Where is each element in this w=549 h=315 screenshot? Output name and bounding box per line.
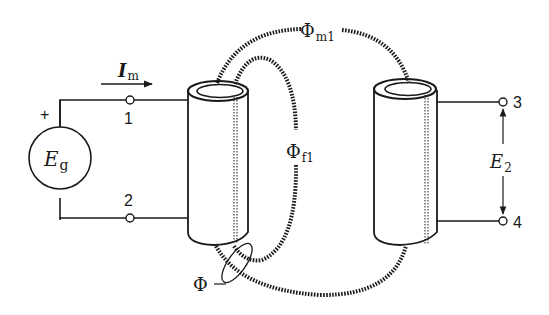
mutual-flux-top-left: [217, 29, 302, 83]
right-coax-line: [374, 79, 437, 245]
mutual-flux-label: Φm1: [300, 20, 335, 44]
polarity-plus: +: [40, 106, 49, 123]
coax-flux-diagram: Eg + 1 2 Im 3 4 E2: [0, 0, 549, 315]
terminal-2: [126, 214, 134, 222]
terminal-3: [499, 98, 507, 106]
source-circuit: Eg + 1 2 Im: [29, 60, 187, 222]
terminal-4-label: 4: [513, 214, 522, 231]
bottom-wire: [60, 218, 187, 220]
output-circuit: 3 4 E2: [437, 94, 522, 231]
output-voltage-label: E2: [489, 151, 512, 175]
terminal-3-label: 3: [513, 94, 522, 111]
terminal-2-label: 2: [124, 192, 133, 209]
left-coax-line: [188, 81, 248, 245]
current-label: Im: [117, 60, 139, 83]
terminal-4: [499, 217, 507, 225]
terminal-1: [126, 96, 134, 104]
mutual-flux-bottom: [216, 246, 406, 295]
mutual-flux-top-right: [342, 30, 409, 83]
terminal-1-label: 1: [124, 110, 133, 127]
total-flux-label: Φ: [193, 274, 208, 295]
leakage-flux-label: Φf1: [286, 141, 314, 165]
